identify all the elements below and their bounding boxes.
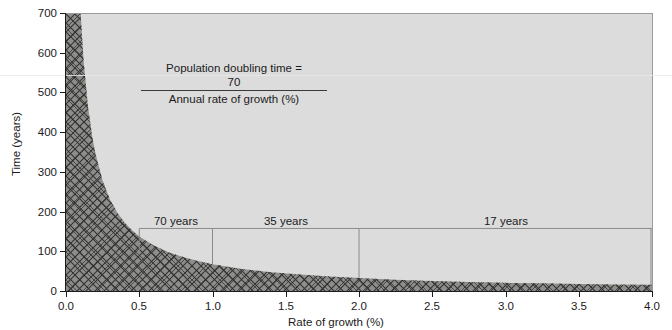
plot-svg — [66, 14, 652, 292]
y-tick-label-100: 100 — [17, 246, 57, 257]
y-tick-label-300: 300 — [17, 167, 57, 178]
plot-area: Population doubling time = 70 Annual rat… — [66, 13, 653, 292]
x-tick-label-0p5: 0.5 — [116, 300, 162, 312]
x-tick-label-3p0: 3.0 — [483, 300, 529, 312]
x-tick-0p5 — [139, 292, 140, 297]
y-tick-700 — [60, 13, 65, 14]
x-tick-3p5 — [579, 292, 580, 297]
scan-artifact-line — [0, 75, 672, 76]
y-tick-label-600: 600 — [17, 48, 57, 59]
y-tick-600 — [60, 53, 65, 54]
marker-label-17-years: 17 years — [484, 215, 528, 227]
marker-label-70-years: 70 years — [154, 215, 198, 227]
y-tick-400 — [60, 132, 65, 133]
y-tick-label-200: 200 — [17, 207, 57, 218]
x-tick-4p0 — [652, 292, 653, 297]
y-tick-300 — [60, 172, 65, 173]
x-tick-2p5 — [432, 292, 433, 297]
y-tick-label-group: 700 600 500 400 300 200 100 0 — [0, 0, 57, 330]
x-tick-label-1p0: 1.0 — [190, 300, 236, 312]
x-axis-title: Rate of growth (%) — [0, 316, 672, 328]
y-tick-200 — [60, 212, 65, 213]
y-tick-label-0: 0 — [17, 286, 57, 297]
formula-numerator-label: Population doubling time = — [141, 61, 327, 75]
y-axis-title: Time (years) — [10, 84, 22, 204]
x-tick-label-2p0: 2.0 — [336, 300, 382, 312]
y-tick-label-500: 500 — [17, 87, 57, 98]
formula-numerator-group: Population doubling time = 70 — [141, 61, 327, 91]
doubling-time-chart: Population doubling time = 70 Annual rat… — [0, 0, 672, 330]
formula-numerator-value: 70 — [141, 75, 327, 89]
x-tick-label-2p5: 2.5 — [409, 300, 455, 312]
doubling-time-formula: Population doubling time = 70 Annual rat… — [141, 61, 327, 106]
y-tick-100 — [60, 251, 65, 252]
x-tick-1p0 — [213, 292, 214, 297]
marker-label-35-years: 35 years — [264, 215, 308, 227]
y-tick-500 — [60, 92, 65, 93]
y-tick-label-700: 700 — [17, 8, 57, 19]
x-tick-3p0 — [506, 292, 507, 297]
y-tick-label-400: 400 — [17, 127, 57, 138]
x-tick-label-4p0: 4.0 — [629, 300, 672, 312]
x-tick-1p5 — [286, 292, 287, 297]
x-tick-0p0 — [66, 292, 67, 297]
y-tick-0 — [60, 291, 65, 292]
x-tick-label-0p0: 0.0 — [43, 300, 89, 312]
y-axis-line — [65, 13, 66, 292]
x-tick-label-3p5: 3.5 — [556, 300, 602, 312]
x-tick-label-1p5: 1.5 — [263, 300, 309, 312]
formula-denominator: Annual rate of growth (%) — [141, 91, 327, 106]
x-tick-2p0 — [359, 292, 360, 297]
